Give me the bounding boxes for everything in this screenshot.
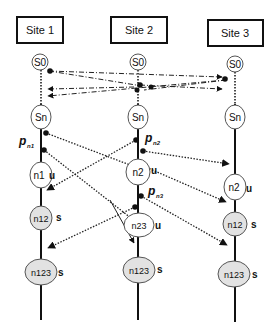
node-n2-site2: n2 u — [126, 159, 157, 185]
node-s0-site3: S0 — [227, 56, 243, 72]
node-n123-site3: n123 s — [218, 261, 258, 287]
site-diagram: Site 1 Site 2 Site 3 — [0, 0, 275, 334]
svg-text:n12: n12 — [227, 220, 242, 230]
node-n12-site1: n12 s — [30, 206, 62, 230]
site-box-2: Site 2 — [111, 17, 167, 43]
state-tag: u — [151, 165, 157, 176]
state-tag: s — [252, 269, 258, 280]
svg-text:n1: n1 — [27, 143, 35, 149]
node-n23: n23 u — [124, 213, 161, 237]
node-s0-site1: S0 — [32, 54, 48, 70]
node-sn-site3: Sn — [225, 105, 245, 129]
svg-text:Sn: Sn — [132, 112, 144, 123]
svg-text:S0: S0 — [229, 59, 242, 70]
node-n2-site3: n2 u — [224, 174, 252, 200]
svg-text:p: p — [144, 131, 152, 145]
site-1-label: Site 1 — [26, 24, 54, 36]
svg-text:n123: n123 — [31, 268, 51, 278]
site-box-3: Site 3 — [208, 20, 263, 46]
svg-text:n12: n12 — [33, 214, 48, 224]
node-n1: n1 u — [30, 162, 55, 188]
state-tag: s — [251, 219, 257, 230]
svg-text:n23: n23 — [131, 221, 146, 231]
svg-text:S0: S0 — [132, 57, 145, 68]
node-n123-site1: n123 s — [25, 259, 64, 285]
svg-text:p: p — [18, 134, 26, 148]
svg-text:n2: n2 — [153, 140, 161, 146]
node-n12-site3: n12 s — [223, 212, 257, 236]
site-3-label: Site 3 — [221, 27, 249, 39]
node-sn-site2: Sn — [128, 105, 148, 129]
state-tag: u — [155, 220, 161, 231]
state-tag: s — [157, 264, 163, 275]
svg-text:Sn: Sn — [229, 112, 241, 123]
state-tag: u — [49, 170, 55, 181]
svg-text:p: p — [147, 184, 155, 198]
state-tag: u — [246, 183, 252, 194]
svg-text:S0: S0 — [34, 57, 47, 68]
node-n123-site2: n123 s — [123, 257, 163, 283]
site-2-label: Site 2 — [125, 24, 153, 36]
svg-text:n123: n123 — [129, 266, 149, 276]
proposal-label-pn2: p n2 — [144, 131, 161, 146]
node-s0-site2: S0 — [130, 54, 146, 70]
svg-text:n2: n2 — [132, 167, 144, 178]
node-sn-site1: Sn — [31, 105, 51, 129]
svg-text:n2: n2 — [228, 182, 240, 193]
site-box-1: Site 1 — [17, 17, 63, 43]
state-tag: s — [58, 267, 64, 278]
svg-text:Sn: Sn — [35, 112, 47, 123]
svg-text:n1: n1 — [33, 170, 45, 181]
proposal-label-pn3: p n3 — [147, 184, 164, 199]
proposal-label-pn1: p n1 — [18, 134, 35, 149]
svg-text:n123: n123 — [224, 270, 244, 280]
state-tag: s — [56, 212, 62, 223]
svg-text:n3: n3 — [156, 193, 164, 199]
